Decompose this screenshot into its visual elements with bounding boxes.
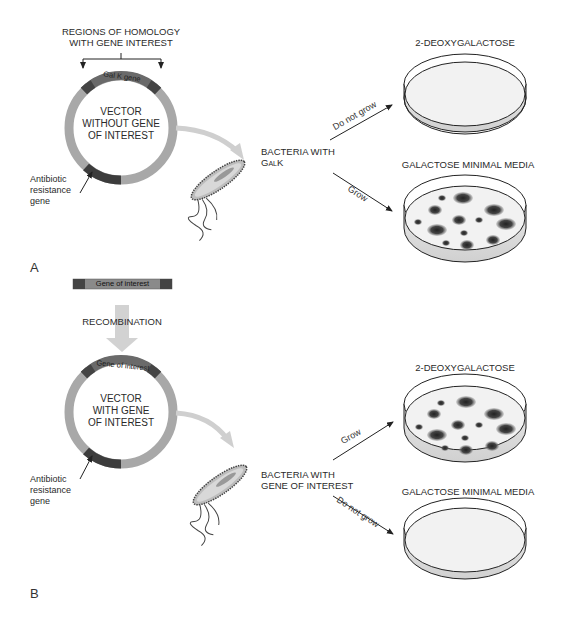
recombination-label: RECOMBINATION xyxy=(67,316,177,327)
antibiotic-b-line2: resistance xyxy=(30,485,71,496)
bacteria-gene-label: BACTERIA WITH GENE OF INTEREST xyxy=(261,469,353,491)
plate-a-bottom-title: GALACTOSE MINIMAL MEDIA xyxy=(388,159,548,170)
antibiotic-label-a: Antibiotic resistance gene xyxy=(30,174,71,207)
bacteria-a-line1: BACTERIA WITH xyxy=(261,146,335,157)
recombination-arrow xyxy=(106,305,138,352)
petri-dish-b-top xyxy=(404,374,526,462)
plate-b-bottom-title: GALACTOSE MINIMAL MEDIA xyxy=(388,486,548,497)
antibiotic-a-line3: gene xyxy=(30,196,71,207)
bacterium-b-icon xyxy=(174,459,269,545)
petri-dish-a-top xyxy=(404,54,526,134)
transfer-arrow-b xyxy=(176,413,228,440)
homology-bracket xyxy=(83,53,161,68)
petri-dish-b-bottom xyxy=(404,498,526,579)
vector-a-line1: VECTOR xyxy=(80,106,162,118)
plate-b-top-title: 2-DEOXYGALACTOSE xyxy=(405,362,525,373)
vector-a-line3: OF INTEREST xyxy=(80,130,162,142)
antibiotic-a-line1: Antibiotic xyxy=(30,174,71,185)
transfer-arrow-a xyxy=(176,128,238,152)
vector-a-label: VECTOR WITHOUT GENE OF INTEREST xyxy=(80,106,162,142)
bacterium-a-icon xyxy=(172,154,267,240)
homology-label: REGIONS OF HOMOLOGY WITH GENE INTEREST xyxy=(51,26,191,48)
vector-a-line2: WITHOUT GENE xyxy=(80,118,162,130)
diagram-graphics xyxy=(0,0,565,621)
gene-of-interest-insert-label: Gene of interest xyxy=(85,279,160,289)
bacteria-galk-label: BACTERIA WITH GalK xyxy=(261,146,335,168)
antibiotic-label-b: Antibiotic resistance gene xyxy=(30,474,71,507)
antibiotic-b-line3: gene xyxy=(30,496,71,507)
gene-recombination-diagram: REGIONS OF HOMOLOGY WITH GENE INTEREST G… xyxy=(0,0,565,621)
petri-dish-a-bottom xyxy=(404,175,526,262)
vector-b-line2: WITH GENE xyxy=(80,405,162,417)
antibiotic-b-line1: Antibiotic xyxy=(30,474,71,485)
bacteria-a-line2: GalK xyxy=(261,157,335,168)
bacteria-b-line2: GENE OF INTEREST xyxy=(261,480,353,491)
homology-label-line2: WITH GENE INTEREST xyxy=(51,37,191,48)
panel-label-a: A xyxy=(30,260,39,275)
vector-b-line3: OF INTEREST xyxy=(80,417,162,429)
vector-b-line1: VECTOR xyxy=(80,393,162,405)
plate-a-top-title: 2-DEOXYGALACTOSE xyxy=(405,37,525,48)
bacteria-b-line1: BACTERIA WITH xyxy=(261,469,353,480)
homology-label-line1: REGIONS OF HOMOLOGY xyxy=(51,26,191,37)
antibiotic-a-line2: resistance xyxy=(30,185,71,196)
panel-label-b: B xyxy=(30,586,39,601)
vector-b-label: VECTOR WITH GENE OF INTEREST xyxy=(80,393,162,429)
